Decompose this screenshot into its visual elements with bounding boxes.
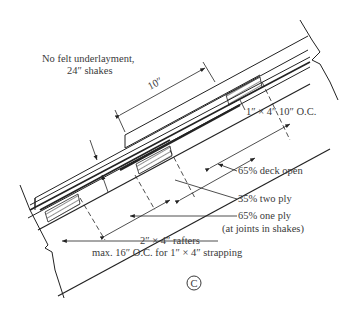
exposure-label: 10″	[146, 75, 164, 92]
note-line1: No felt underlayment,	[42, 53, 134, 64]
figure-letter: C	[190, 278, 197, 289]
strapping-label: 1″ × 4″ 10″ O.C.	[246, 106, 316, 117]
rafters-line2: max. 16″ O.C. for 1″ × 4″ strapping	[92, 247, 243, 258]
leader-lines	[62, 100, 245, 241]
figure-label: C	[187, 276, 201, 290]
two-ply-label: 35% two ply	[238, 193, 292, 204]
one-ply-note: (at joints in shakes)	[222, 223, 304, 235]
rafters-line1: 2″ × 4″ rafters	[140, 235, 200, 246]
note-line2: 24″ shakes	[67, 65, 113, 76]
one-ply-label: 65% one ply	[238, 210, 292, 221]
roof-section-diagram: No felt underlayment, 24″ shakes 10″ 1″ …	[0, 0, 358, 311]
deck-open-label: 65% deck open	[238, 165, 303, 176]
